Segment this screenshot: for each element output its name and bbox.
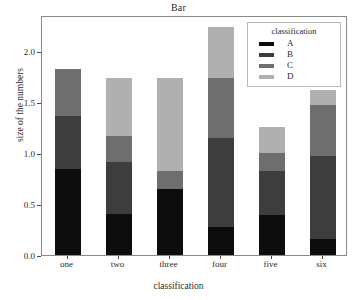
y-tick-mark [37,256,41,257]
bar-segment[interactable] [259,215,285,255]
legend-entry[interactable]: B [253,49,335,60]
legend-title: classification [253,26,335,36]
legend-entries: ABCD [253,38,335,82]
x-tick-label: six [292,259,352,269]
legend-swatch-icon [259,75,274,79]
legend: classification ABCD [247,22,341,87]
bar-segment[interactable] [157,78,183,171]
bar-segment[interactable] [208,78,234,137]
legend-label: D [287,71,294,82]
bar-segment[interactable] [55,169,81,255]
y-tick-label: 0.0 [5,251,35,261]
bar-segment[interactable] [208,138,234,228]
bar-segment[interactable] [55,116,81,169]
x-axis-label: classification [0,281,357,291]
y-tick-label: 0.5 [5,200,35,210]
legend-swatch-icon [259,64,274,68]
bar-stack[interactable] [55,15,81,255]
bar-segment[interactable] [106,78,132,135]
bar-segment[interactable] [259,153,285,171]
bar-segment[interactable] [106,136,132,163]
legend-label: C [287,60,293,71]
legend-swatch-icon [259,42,274,46]
bar-segment[interactable] [310,156,336,239]
bar-segment[interactable] [157,189,183,255]
bar-segment[interactable] [310,90,336,105]
legend-label: B [287,49,293,60]
legend-entry[interactable]: D [253,71,335,82]
bar-segment[interactable] [55,69,81,116]
legend-entry[interactable]: C [253,60,335,71]
bar-segment[interactable] [259,127,285,153]
bar-segment[interactable] [208,227,234,255]
bar-segment[interactable] [310,105,336,156]
bar-segment[interactable] [208,27,234,78]
bar-stack[interactable] [208,15,234,255]
y-tick-label: 1.5 [5,98,35,108]
legend-entry[interactable]: A [253,38,335,49]
legend-label: A [287,38,294,49]
bar-segment[interactable] [259,171,285,215]
bar-stack[interactable] [157,15,183,255]
bar-chart: Bar size of the numbers classification 0… [0,0,357,300]
y-tick-label: 1.0 [5,149,35,159]
bar-segment[interactable] [106,214,132,255]
legend-swatch-icon [259,53,274,57]
chart-title: Bar [0,2,357,13]
bar-segment[interactable] [157,171,183,188]
bar-segment[interactable] [106,162,132,214]
y-tick-label: 2.0 [5,47,35,57]
bar-stack[interactable] [106,15,132,255]
bar-segment[interactable] [310,239,336,255]
